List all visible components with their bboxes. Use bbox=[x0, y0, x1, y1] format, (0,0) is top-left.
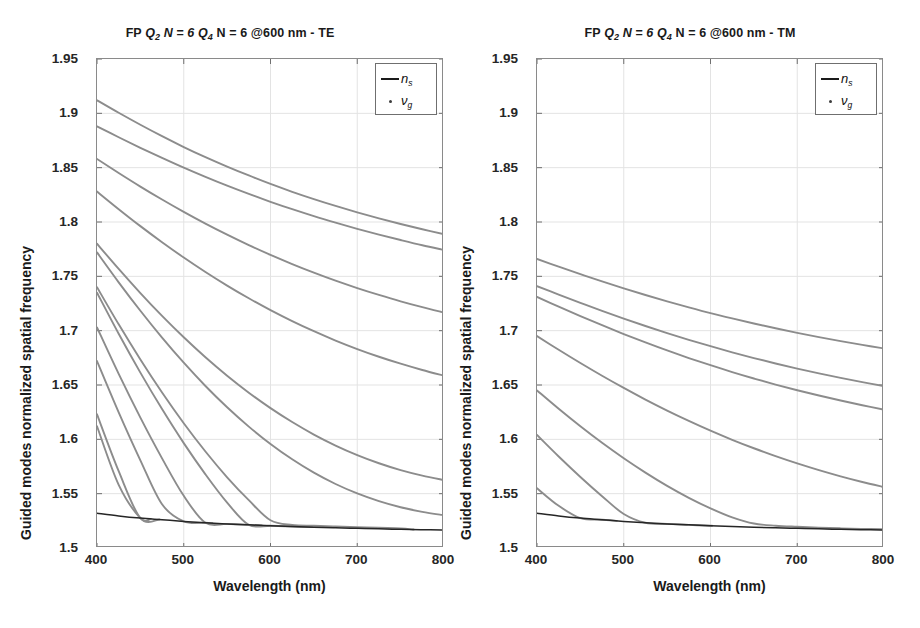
y-tick-1.85: 1.85 bbox=[18, 159, 78, 174]
y-tick-1.55: 1.55 bbox=[458, 485, 518, 500]
y-tick-1.95: 1.95 bbox=[18, 51, 78, 66]
legend-label-vg: νg bbox=[841, 93, 852, 110]
legend-te: ns νg bbox=[375, 63, 437, 115]
title-prefix: FP bbox=[126, 26, 142, 40]
y-tick-1.65: 1.65 bbox=[458, 377, 518, 392]
y-tick-1.9: 1.9 bbox=[458, 105, 518, 120]
y-tick-1.6: 1.6 bbox=[458, 431, 518, 446]
x-tick-600: 600 bbox=[675, 552, 745, 567]
panel-te: FP Q2 N = 6 Q4 N = 6 @600 nm - TE Guided… bbox=[0, 0, 460, 628]
title-q1: Q bbox=[145, 26, 155, 40]
x-axis-label-te: Wavelength (nm) bbox=[96, 578, 443, 594]
curve-guided-mode bbox=[97, 414, 159, 522]
title-q1-sub: 2 bbox=[614, 32, 619, 42]
legend-label-ns: ns bbox=[841, 71, 852, 88]
y-tick-1.65: 1.65 bbox=[18, 377, 78, 392]
plot-svg-te bbox=[97, 59, 443, 547]
y-tick-1.6: 1.6 bbox=[18, 431, 78, 446]
title-q1: Q bbox=[604, 26, 614, 40]
x-tick-500: 500 bbox=[588, 552, 658, 567]
title-prefix: FP bbox=[585, 26, 601, 40]
x-axis-label-tm: Wavelength (nm) bbox=[536, 578, 883, 594]
y-tick-1.8: 1.8 bbox=[458, 214, 518, 229]
legend-tm: ns νg bbox=[815, 63, 877, 115]
curve-guided-mode bbox=[97, 426, 151, 521]
y-tick-1.75: 1.75 bbox=[458, 268, 518, 283]
title-mid1: N = 6 bbox=[623, 26, 654, 40]
legend-item-vg: νg bbox=[819, 90, 873, 112]
y-tick-1.9: 1.9 bbox=[18, 105, 78, 120]
legend-line-icon bbox=[379, 78, 401, 80]
title-mid2: N = 6 @600 nm - TE bbox=[217, 26, 335, 40]
legend-item-vg: νg bbox=[379, 90, 433, 112]
title-mid2: N = 6 @600 nm - TM bbox=[675, 26, 795, 40]
x-tick-400: 400 bbox=[61, 552, 131, 567]
legend-label-ns: ns bbox=[401, 71, 412, 88]
title-q2: Q bbox=[657, 26, 667, 40]
x-tick-700: 700 bbox=[321, 552, 391, 567]
title-q2: Q bbox=[198, 26, 208, 40]
curve-guided-mode bbox=[537, 435, 712, 526]
y-tick-1.7: 1.7 bbox=[18, 322, 78, 337]
plot-svg-tm bbox=[537, 59, 883, 547]
x-tick-600: 600 bbox=[235, 552, 305, 567]
plot-area-te bbox=[96, 58, 443, 547]
x-tick-700: 700 bbox=[761, 552, 831, 567]
title-q2-sub: 4 bbox=[667, 32, 672, 42]
panel-title-tm: FP Q2 N = 6 Q4 N = 6 @600 nm - TM bbox=[460, 26, 920, 42]
y-tick-1.7: 1.7 bbox=[458, 322, 518, 337]
panel-tm: FP Q2 N = 6 Q4 N = 6 @600 nm - TM Guided… bbox=[460, 0, 920, 628]
legend-dot-icon bbox=[819, 100, 841, 103]
y-tick-1.85: 1.85 bbox=[458, 159, 518, 174]
y-tick-1.95: 1.95 bbox=[458, 51, 518, 66]
plot-area-tm bbox=[536, 58, 883, 547]
legend-dot-icon bbox=[379, 100, 401, 103]
title-q1-sub: 2 bbox=[155, 32, 160, 42]
title-mid1: N = 6 bbox=[164, 26, 195, 40]
figure-root: FP Q2 N = 6 Q4 N = 6 @600 nm - TE Guided… bbox=[0, 0, 920, 628]
curve-guided-mode bbox=[537, 488, 617, 521]
x-tick-800: 800 bbox=[848, 552, 918, 567]
x-tick-400: 400 bbox=[501, 552, 571, 567]
curve-guided-mode bbox=[97, 293, 312, 527]
legend-label-vg: νg bbox=[401, 93, 412, 110]
legend-line-icon bbox=[819, 78, 841, 80]
y-tick-1.8: 1.8 bbox=[18, 214, 78, 229]
x-tick-500: 500 bbox=[148, 552, 218, 567]
y-tick-1.55: 1.55 bbox=[18, 485, 78, 500]
y-tick-1.75: 1.75 bbox=[18, 268, 78, 283]
legend-item-ns: ns bbox=[819, 68, 873, 90]
legend-item-ns: ns bbox=[379, 68, 433, 90]
title-q2-sub: 4 bbox=[208, 32, 213, 42]
panel-title-te: FP Q2 N = 6 Q4 N = 6 @600 nm - TE bbox=[0, 26, 460, 42]
